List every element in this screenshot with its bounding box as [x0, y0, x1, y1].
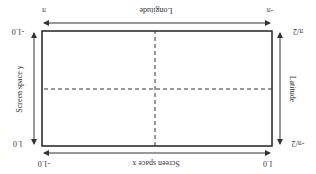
tick-label: -π/2: [292, 139, 305, 148]
longitude-label: Longitude: [139, 6, 172, 15]
screen-y-label: Screen space y: [15, 65, 24, 113]
tick-label: 1.0: [13, 139, 23, 148]
latitude-label: Latitude: [288, 76, 297, 103]
tick-label: -π: [267, 6, 274, 15]
diagram: Screen space x 1.0 -1.0 Longitude -π π L…: [0, 0, 316, 174]
screen-x-label: Screen space x: [132, 159, 180, 168]
tick-label: -1.0: [12, 27, 25, 36]
projection-diagram: Screen space x 1.0 -1.0 Longitude -π π L…: [0, 0, 316, 174]
tick-label: -1.0: [38, 159, 51, 168]
tick-label: π/2: [293, 27, 303, 36]
tick-label: π: [42, 6, 46, 15]
tick-label: 1.0: [263, 159, 273, 168]
